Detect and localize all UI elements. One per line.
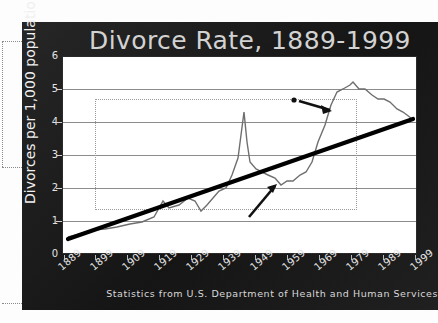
y-axis-label: Divorces per 1,000 population bbox=[22, 4, 38, 204]
series-divorce-rate bbox=[68, 82, 411, 237]
y-tick-label-6: 6 bbox=[36, 51, 58, 61]
y-tick-label-2: 2 bbox=[36, 183, 58, 193]
y-tick-label-1: 1 bbox=[36, 216, 58, 226]
plot-area bbox=[62, 56, 417, 254]
chart-title: Divorce Rate, 1889-1999 bbox=[62, 24, 438, 58]
y-tick-label-3: 3 bbox=[36, 150, 58, 160]
y-tick-label-4: 4 bbox=[36, 117, 58, 127]
source-caption: Statistics from U.S. Department of Healt… bbox=[62, 288, 438, 299]
y-tick-label-5: 5 bbox=[36, 84, 58, 94]
callout-guide-left bbox=[2, 41, 3, 167]
y-tick-label-0: 0 bbox=[36, 249, 58, 259]
chart-canvas bbox=[63, 57, 416, 253]
screenshot-root: Divorce Rate, 1889-1999 Divorces per 1,0… bbox=[0, 0, 438, 323]
annotation-dot-marker bbox=[291, 97, 296, 102]
arrow-to-1970s-rise bbox=[299, 101, 332, 114]
arrow-to-1950s-trough bbox=[249, 184, 277, 217]
